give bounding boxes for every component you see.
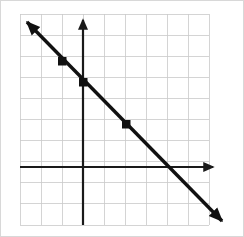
coordinate-plane-svg [0,0,244,237]
graph-screenshot [0,0,244,237]
coordinate-plane-figure [0,0,244,237]
data-point-marker [79,78,88,87]
data-point-marker [58,57,67,66]
data-point-marker [122,120,131,129]
